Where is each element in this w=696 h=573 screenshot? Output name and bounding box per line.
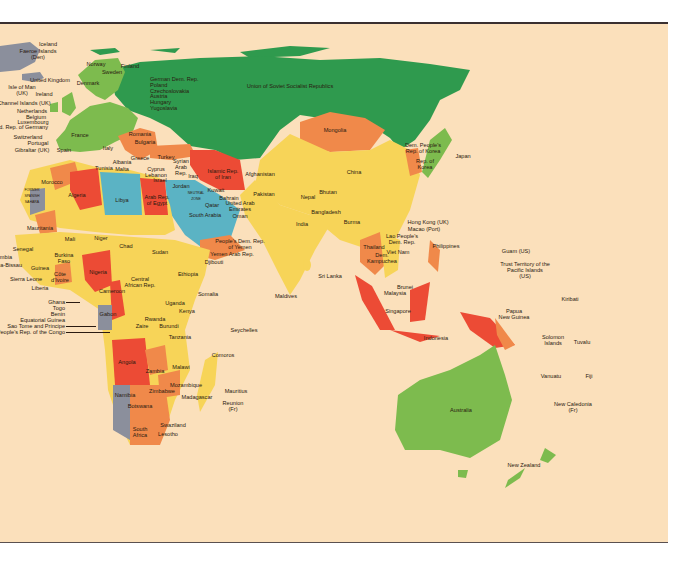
label-fiji: Fiji: [585, 373, 592, 379]
label-china: China: [347, 169, 362, 175]
label-gambia: Gambia: [0, 254, 12, 260]
label-burkina: Burkina Faso: [55, 252, 74, 264]
leader-line: [66, 326, 96, 327]
label-italy: Italy: [103, 145, 113, 151]
label-burundi: Burundi: [159, 323, 178, 329]
label-pakistan: Pakistan: [253, 191, 274, 197]
label-israel: Israel: [153, 177, 167, 183]
label-oman: Oman: [232, 213, 247, 219]
label-pdr-yemen: People's Dem. Rep. of Yemen: [215, 238, 265, 250]
label-mauritius: Mauritius: [225, 388, 248, 394]
label-gabon: Gabon: [100, 311, 117, 317]
label-maldives: Maldives: [275, 293, 297, 299]
label-australia: Australia: [450, 407, 472, 413]
label-ussr: Union of Soviet Socialist Republics: [247, 83, 333, 89]
label-laos: Lao People's Dem. Rep.: [386, 233, 418, 245]
label-vanuatu: Vanuatu: [541, 373, 561, 379]
label-singapore: Singapore: [385, 308, 411, 314]
label-kiribati: Kiribati: [561, 296, 578, 302]
label-kuwait: Kuwait: [208, 187, 225, 193]
label-car: Central African Rep.: [125, 276, 156, 288]
label-libya: Libya: [115, 197, 128, 203]
label-rwanda: Rwanda: [145, 316, 166, 322]
label-neutral-zone: NEUTRAL ZONE: [188, 190, 204, 202]
label-denmark: Denmark: [77, 80, 100, 86]
map-canvas: [0, 22, 668, 543]
label-morocco: Morocco: [41, 179, 62, 185]
label-liberia: Liberia: [32, 285, 49, 291]
label-mongolia: Mongolia: [324, 127, 347, 133]
label-isle-of-man: Isle of Man (UK): [8, 84, 35, 96]
label-syria: Syrian Arab Rep.: [173, 158, 189, 176]
label-ethiopia: Ethiopia: [178, 271, 198, 277]
label-iran: Islamic Rep. of Iran: [208, 168, 239, 180]
top-rule: [0, 22, 668, 24]
label-mali: Mali: [65, 236, 75, 242]
label-gibraltar: Gibraltar (UK): [15, 147, 50, 153]
label-sierra-leone: Sierra Leone: [10, 276, 42, 282]
label-sri-lanka: Sri Lanka: [318, 273, 342, 279]
label-portugal: Portugal: [28, 140, 49, 146]
label-ireland: Ireland: [35, 91, 52, 97]
label-trust-territory: Trust Territory of the Pacific Islands (…: [500, 261, 550, 279]
label-cote-divoire: Côte d'Ivoire: [51, 271, 69, 283]
label-finland: Finland: [121, 63, 139, 69]
label-niger: Niger: [94, 235, 107, 241]
label-cameroon: Cameroon: [99, 288, 125, 294]
label-iraq: Iraq: [188, 173, 198, 179]
label-djibouti: Djibouti: [205, 259, 224, 265]
label-iceland: Iceland: [39, 41, 57, 47]
label-new-caledonia: New Caledonia (Fr): [554, 401, 592, 413]
label-south-africa: South Africa: [133, 426, 148, 438]
label-channel-islands: Channel Islands (UK): [0, 100, 51, 106]
label-thailand: Thailand: [363, 244, 384, 250]
label-dprk: Dem. People's Rep. of Korea: [405, 142, 441, 154]
label-jordan: Jordan: [172, 183, 189, 189]
label-congo: People's Rep. of the Congo: [0, 329, 65, 335]
label-philippines: Philippines: [432, 243, 459, 249]
label-burma: Burma: [344, 219, 360, 225]
label-angola: Angola: [118, 359, 135, 365]
label-tanzania: Tanzania: [169, 334, 191, 340]
label-spain: Spain: [57, 147, 71, 153]
label-east-bloc: German Dem. Rep. Poland Czechoslovakia A…: [150, 77, 199, 112]
australia-shape: [395, 345, 512, 458]
map-panel: Iceland Faeroe Islands (Den) Norway Swed…: [0, 22, 668, 543]
leader-line: [66, 332, 110, 333]
label-uk: United Kingdom: [30, 77, 70, 83]
label-solomon: Solomon Islands: [542, 334, 564, 346]
label-reunion: Reunion (Fr): [223, 400, 244, 412]
label-turkey: Turkey: [158, 154, 175, 160]
label-nepal: Nepal: [301, 194, 316, 200]
label-bulgaria: Bulgaria: [135, 139, 156, 145]
label-qatar: Qatar: [205, 202, 219, 208]
label-romania: Romania: [129, 131, 151, 137]
label-indonesia: Indonesia: [424, 335, 448, 341]
label-namibia: Namibia: [115, 392, 136, 398]
label-malaysia: Malaysia: [384, 290, 406, 296]
label-chad: Chad: [119, 243, 132, 249]
label-tunisia: Tunisia: [95, 165, 113, 171]
label-rok: Rep. of Korea: [416, 158, 434, 170]
label-new-zealand: New Zealand: [508, 462, 541, 468]
label-guam: Guam (US): [502, 248, 530, 254]
label-tuvalu: Tuvalu: [574, 339, 591, 345]
label-guinea: Guinea: [31, 265, 49, 271]
label-saudi: South Arabia: [189, 212, 221, 218]
bottom-rule: [0, 542, 668, 543]
label-mauritania: Mauritania: [27, 225, 53, 231]
label-nigeria: Nigeria: [89, 269, 107, 275]
label-zaire: Zaire: [136, 323, 149, 329]
label-egypt: Arab Rep. of Egypt: [144, 194, 169, 206]
label-seychelles: Seychelles: [230, 327, 257, 333]
label-yemen-ar: Yemen Arab Rep.: [210, 251, 254, 257]
label-somalia: Somalia: [198, 291, 218, 297]
label-senegal: Senegal: [13, 246, 34, 252]
label-sweden: Sweden: [102, 69, 122, 75]
label-comoros: Comoros: [212, 352, 235, 358]
label-afghanistan: Afghanistan: [245, 171, 275, 177]
label-norway: Norway: [87, 61, 106, 67]
label-swaziland: Swaziland: [160, 422, 186, 428]
label-albania: Albania: [113, 159, 132, 165]
label-malta: Malta: [115, 166, 129, 172]
